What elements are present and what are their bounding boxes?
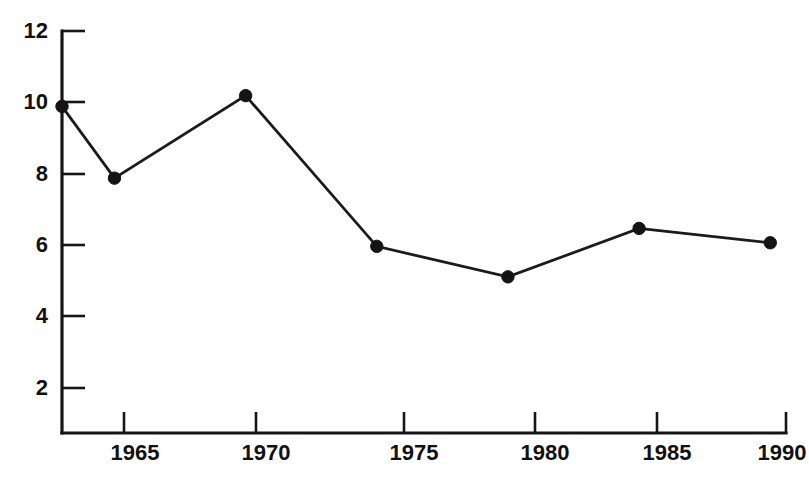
data-point-1970 — [239, 89, 251, 101]
data-point-1985 — [633, 222, 645, 234]
x-tick-label-1985: 1985 — [643, 440, 692, 466]
y-tick-label-6: 6 — [8, 232, 48, 258]
x-tick-marks — [124, 412, 786, 433]
x-tick-label-1980: 1980 — [521, 440, 570, 466]
x-tick-label-1970: 1970 — [242, 440, 291, 466]
series-line — [62, 96, 770, 277]
data-point-1975 — [371, 240, 383, 252]
y-tick-label-2: 2 — [8, 375, 48, 401]
line-chart: 12 10 8 6 4 2 1965 1970 1975 1980 1985 1… — [0, 0, 809, 477]
x-tick-label-1965: 1965 — [111, 440, 160, 466]
y-tick-marks — [62, 31, 85, 388]
x-tick-label-1975: 1975 — [390, 440, 439, 466]
data-point-1980 — [502, 271, 514, 283]
y-tick-label-8: 8 — [8, 161, 48, 187]
x-tick-label-1990: 1990 — [758, 440, 807, 466]
data-point-1963 — [56, 100, 68, 112]
y-tick-label-4: 4 — [8, 303, 48, 329]
y-tick-label-10: 10 — [8, 89, 48, 115]
chart-plot-area — [0, 0, 809, 477]
series-markers — [56, 89, 777, 283]
data-point-1965 — [108, 172, 120, 184]
data-point-1990 — [764, 237, 776, 249]
y-tick-label-12: 12 — [8, 18, 48, 44]
